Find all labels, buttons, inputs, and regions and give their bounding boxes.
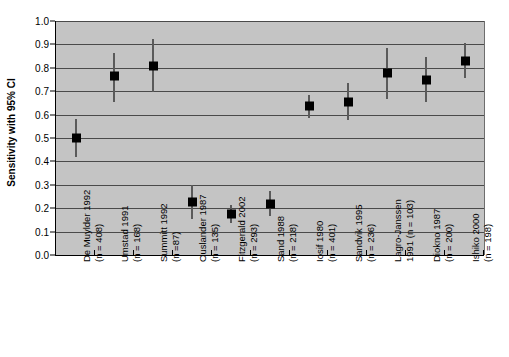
x-label-study: Sandvik 1995 xyxy=(353,204,365,262)
data-point-marker[interactable] xyxy=(383,68,392,77)
x-axis-tick-label: Ouslander 1987(n = 135) xyxy=(197,194,220,262)
y-axis-tick-label: 0.4 xyxy=(35,156,49,167)
data-point-marker[interactable] xyxy=(422,75,431,84)
y-axis-tick-label: 0.6 xyxy=(35,109,49,120)
x-axis-tick-label: Iosif 1980(n = 401) xyxy=(314,221,337,262)
x-label-study: Ouslander 1987 xyxy=(197,194,209,262)
x-label-sample-size: (n = 293) xyxy=(248,197,260,262)
gridline xyxy=(56,161,484,162)
x-label-sample-size: (n = 401) xyxy=(325,221,337,262)
forest-plot-figure: Sensitivity with 95% CI 0.00.10.20.30.40… xyxy=(0,0,509,357)
x-label-study: Iosif 1980 xyxy=(314,221,326,262)
gridline xyxy=(56,68,484,69)
y-axis-tick-label: 0.7 xyxy=(35,86,49,97)
x-axis-tick-mark xyxy=(55,250,56,256)
x-label-sample-size: 1991 (n = 103) xyxy=(403,199,415,262)
x-label-study: Diokno 1987 xyxy=(431,209,443,262)
x-label-sample-size: (n = 198) xyxy=(481,213,493,262)
x-axis-tick-labels: De Muylder 1992(n = 408)Umstad 1991(n = … xyxy=(55,262,483,357)
y-axis-tick-label: 0.5 xyxy=(35,133,49,144)
x-axis-tick-label: Sand 1988(n = 218) xyxy=(275,216,298,262)
gridline xyxy=(56,91,484,92)
data-point-marker[interactable] xyxy=(110,72,119,81)
x-axis-tick-label: Sandvik 1995(n = 236) xyxy=(353,204,376,262)
gridline xyxy=(56,115,484,116)
x-label-sample-size: (n = 236) xyxy=(364,204,376,262)
x-axis-tick-label: Summitt 1992(n =87) xyxy=(158,203,181,262)
y-axis-title: Sensitivity with 95% CI xyxy=(0,0,22,265)
x-label-sample-size: (n = 200) xyxy=(442,209,454,262)
x-label-sample-size: (n =87) xyxy=(170,203,182,262)
x-axis-tick-label: Lagro-Janssen1991 (n = 103) xyxy=(392,199,415,262)
x-axis-tick-label: Fitzgerald 2002(n = 293) xyxy=(236,197,259,262)
x-label-study: Summitt 1992 xyxy=(158,203,170,262)
data-point-marker[interactable] xyxy=(461,56,470,65)
x-axis-tick-label: Ishiko 2000(n = 198) xyxy=(470,213,493,262)
gridline xyxy=(56,44,484,45)
data-point-marker[interactable] xyxy=(344,97,353,106)
x-axis-tick-label: Umstad 1991(n = 168) xyxy=(119,205,142,262)
x-axis-tick-label: De Muylder 1992(n = 408) xyxy=(81,190,104,262)
x-label-study: Umstad 1991 xyxy=(119,205,131,262)
x-label-sample-size: (n = 168) xyxy=(131,205,143,262)
x-label-study: De Muylder 1992 xyxy=(81,190,93,262)
x-axis-tick-label: Diokno 1987(n = 200) xyxy=(431,209,454,262)
gridline xyxy=(56,185,484,186)
x-label-study: Lagro-Janssen xyxy=(392,199,404,262)
data-point-marker[interactable] xyxy=(227,210,236,219)
data-point-marker[interactable] xyxy=(149,61,158,70)
data-point-marker[interactable] xyxy=(188,198,197,207)
data-point-marker[interactable] xyxy=(72,134,81,143)
y-axis-tick-label: 0.0 xyxy=(35,250,49,261)
y-axis-tick-label: 0.9 xyxy=(35,39,49,50)
y-axis-title-text: Sensitivity with 95% CI xyxy=(6,78,17,186)
y-axis-tick-label: 0.3 xyxy=(35,179,49,190)
x-label-study: Sand 1988 xyxy=(275,216,287,262)
gridline xyxy=(56,21,484,22)
x-label-study: Ishiko 2000 xyxy=(470,213,482,262)
y-axis-tick-label: 0.1 xyxy=(35,226,49,237)
x-label-study: Fitzgerald 2002 xyxy=(236,197,248,262)
data-point-marker[interactable] xyxy=(266,199,275,208)
data-point-marker[interactable] xyxy=(305,102,314,111)
x-label-sample-size: (n = 135) xyxy=(209,194,221,262)
y-axis-tick-labels: 0.00.10.20.30.40.50.60.70.80.91.0 xyxy=(22,0,55,357)
y-axis-tick-label: 1.0 xyxy=(35,16,49,27)
x-label-sample-size: (n = 218) xyxy=(287,216,299,262)
y-axis-tick-label: 0.2 xyxy=(35,203,49,214)
y-axis-tick-label: 0.8 xyxy=(35,62,49,73)
x-label-sample-size: (n = 408) xyxy=(92,190,104,262)
gridline xyxy=(56,138,484,139)
